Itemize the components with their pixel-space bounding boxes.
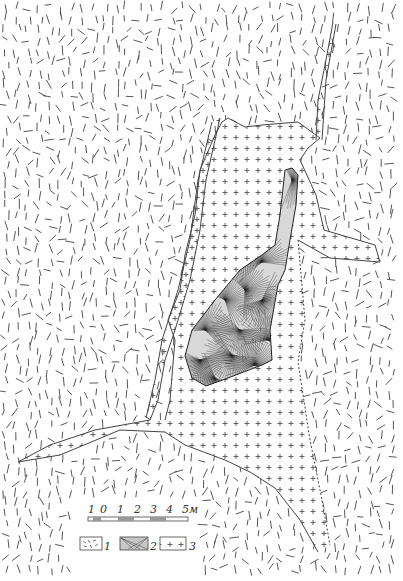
- legend-item-2: 2: [120, 537, 157, 553]
- scale-tick-label: 1: [88, 503, 95, 516]
- scale-tick-label: 4: [165, 503, 173, 516]
- legend-number: 1: [104, 540, 111, 553]
- legend-item-1: 1: [80, 537, 111, 553]
- scale-tick-label: 2: [133, 503, 141, 516]
- scale-tick-label: 3: [150, 503, 157, 516]
- scale-unit-label: 5м: [182, 503, 198, 516]
- legend: 1 2 3: [80, 537, 196, 553]
- legend-number: 3: [189, 540, 196, 553]
- scale-tick-label: 0: [100, 503, 107, 516]
- legend-number: 2: [149, 540, 157, 553]
- geological-map: 1 0 1 2 3 4 5м 1 2 3: [0, 0, 403, 581]
- scale-tick-label: 1: [117, 503, 124, 516]
- scale-bar: 1 0 1 2 3 4 5м: [88, 503, 198, 521]
- legend-item-3: 3: [160, 537, 196, 553]
